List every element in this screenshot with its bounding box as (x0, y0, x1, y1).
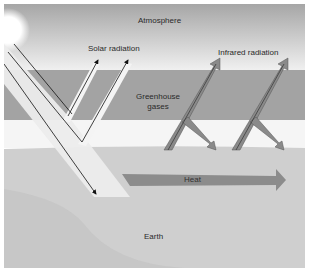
greenhouse-diagram: Atmosphere Solar radiation Infrared radi… (4, 4, 305, 268)
greenhouse-gases-label-line1: Greenhouse (136, 92, 180, 102)
infrared-radiation-label: Infrared radiation (218, 48, 278, 58)
heat-label: Heat (184, 175, 201, 185)
diagram-canvas (4, 4, 305, 268)
greenhouse-gases-label-line2: gases (136, 102, 180, 112)
earth-label: Earth (144, 232, 163, 242)
solar-radiation-label: Solar radiation (88, 44, 140, 54)
greenhouse-gases-label: Greenhouse gases (136, 92, 180, 112)
atmosphere-layer (4, 4, 305, 70)
atmosphere-label: Atmosphere (138, 16, 181, 26)
